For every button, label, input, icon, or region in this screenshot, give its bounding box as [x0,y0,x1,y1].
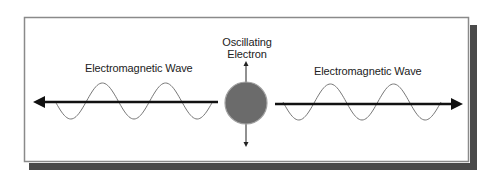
electron-label-line2: Electron [227,48,267,60]
frame-shadow-bottom [29,163,477,170]
left-wave-label: Electromagnetic Wave [85,62,193,74]
diagram-canvas: Oscillating Electron Electromagnetic Wav… [0,0,499,179]
diagram-svg [0,0,499,179]
electron-label-line1: Oscillating [222,36,272,48]
oscillating-electron [225,82,267,124]
right-wave-label: Electromagnetic Wave [314,65,422,77]
frame-shadow-right [470,25,477,170]
